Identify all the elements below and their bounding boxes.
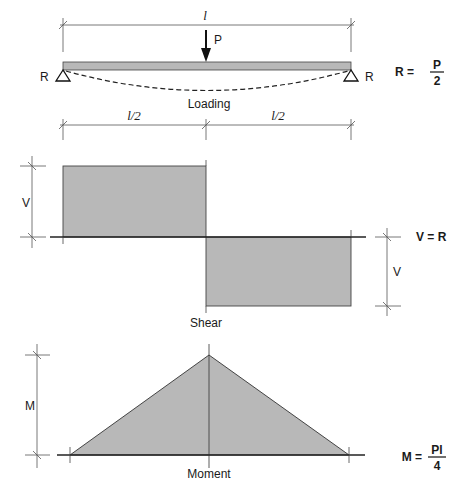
- beam: [63, 62, 351, 70]
- loading-caption: Loading: [188, 97, 231, 111]
- arrowhead-icon: [201, 48, 211, 62]
- left-reaction-label: R: [40, 70, 49, 84]
- moment-caption: Moment: [187, 467, 231, 481]
- shear-equation: V = R: [416, 230, 447, 244]
- negative-shear-block: [206, 237, 351, 306]
- svg-text:M =: M =: [402, 450, 422, 464]
- moment-equation: M = Pl 4: [402, 443, 446, 473]
- deflection-curve: [66, 71, 348, 91]
- beam-diagram: l P R R R = P 2 Loading: [0, 0, 459, 482]
- shear-caption: Shear: [190, 316, 222, 330]
- half-span-dimension: [59, 119, 355, 140]
- half-span-right-label: l/2: [271, 108, 285, 123]
- positive-shear-block: [63, 166, 206, 237]
- moment-dim-label: M: [25, 399, 35, 413]
- moment-triangle: [70, 355, 349, 455]
- svg-text:P: P: [433, 58, 441, 72]
- half-span-left-label: l/2: [127, 108, 141, 123]
- shear-section: V V V = R Shear: [20, 156, 447, 330]
- left-shear-label: V: [22, 196, 30, 210]
- svg-text:4: 4: [434, 459, 441, 473]
- span-label: l: [203, 8, 207, 23]
- loading-section: l P R R R = P 2 Loading: [40, 8, 444, 140]
- reaction-equation: R = P 2: [395, 58, 444, 88]
- right-shear-label: V: [393, 265, 401, 279]
- svg-text:R =: R =: [395, 65, 414, 79]
- svg-text:Pl: Pl: [431, 443, 442, 457]
- load-label: P: [214, 33, 222, 47]
- right-reaction-label: R: [365, 70, 374, 84]
- moment-section: M M = Pl 4 Moment: [25, 344, 446, 481]
- svg-text:2: 2: [434, 74, 441, 88]
